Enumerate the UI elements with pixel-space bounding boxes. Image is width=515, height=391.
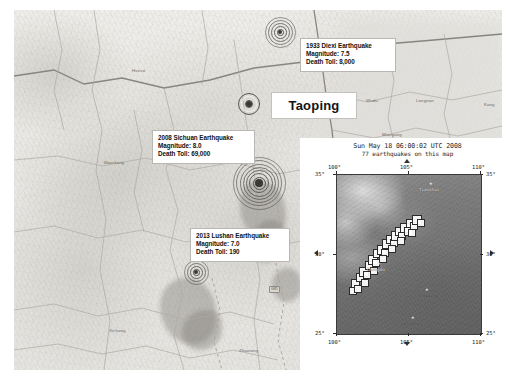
inset-lon-tick-bottom: 110° [472, 339, 485, 345]
map-place-label: Zhaotong [239, 348, 258, 353]
callout-detail: Magnitude: 7.0 [196, 240, 284, 248]
epicenter-center-dot [194, 270, 198, 274]
map-place-label: Longnan [416, 98, 434, 103]
map-place-label: Mianyang [382, 132, 402, 137]
taoping-label-box: Taoping [271, 92, 357, 119]
taoping-site-marker[interactable] [238, 93, 260, 115]
earthquake-square-marker[interactable] [361, 279, 369, 287]
callout-detail: Magnitude: 8.0 [158, 142, 249, 150]
inset-city-star-icon: ★ [377, 262, 381, 266]
epicenter-marker-diexi[interactable] [265, 17, 295, 47]
callout-detail: Death Toll: 69,000 [158, 150, 249, 158]
earthquake-callout-lushan-2013: 2013 Lushan EarthquakeMagnitude: 7.0Deat… [190, 228, 290, 262]
inset-lon-tick-top: 100° [328, 164, 341, 170]
inset-city-star-icon: ★ [411, 316, 415, 320]
inset-lon-tick-top: 105° [400, 164, 413, 170]
map-place-label: Hezuo [132, 68, 145, 73]
inset-city-star-icon: ★ [425, 288, 429, 292]
earthquake-square-marker[interactable] [388, 245, 396, 253]
earthquake-square-marker[interactable] [408, 229, 416, 237]
earthquake-callout-sichuan-2008: 2008 Sichuan EarthquakeMagnitude: 8.0Dea… [152, 130, 255, 164]
callout-title: 2008 Sichuan Earthquake [158, 134, 249, 142]
inset-place-label: Chongqing [415, 293, 438, 298]
inset-title-block: Sun May 18 06:00:02 UTC 2008 77 earthqua… [300, 142, 515, 157]
map-place-label: Xichang [109, 328, 126, 333]
inset-lat-tick-left: 35° [315, 171, 325, 177]
inset-lon-tick-top: 110° [472, 164, 485, 170]
screenshot-root: HezuoMinxianWuduLongnanKangMaerkangTazhe… [0, 0, 515, 391]
inset-lon-tick-bottom: 105° [400, 339, 413, 345]
pan-north-arrow[interactable] [404, 159, 410, 163]
inset-city-star-icon: ★ [429, 182, 433, 186]
epicenter-marker-sichuan[interactable] [233, 157, 285, 209]
inset-place-label: Chengdu [367, 267, 385, 272]
inset-map-frame[interactable]: ★Tianshui★Chengdu★Chongqing★Guiyang [336, 174, 482, 335]
axis-tick [408, 333, 409, 336]
inset-lon-tick-bottom: 100° [328, 339, 341, 345]
map-place-label: Wudu [366, 98, 378, 103]
taoping-center-dot [246, 101, 252, 107]
inset-lat-tick-left: 30° [315, 251, 325, 257]
callout-title: 1933 Diexi Earthquake [306, 42, 390, 50]
axis-tick [333, 333, 336, 334]
inset-timestamp: Sun May 18 06:00:02 UTC 2008 [300, 142, 515, 150]
axis-tick [336, 333, 337, 336]
callout-detail: Magnitude: 7.5 [306, 50, 390, 58]
axis-tick [480, 333, 483, 334]
inset-relief-texture [337, 175, 481, 334]
inset-lat-tick-right: 30° [486, 251, 496, 257]
axis-tick [333, 254, 336, 255]
earthquake-square-marker[interactable] [397, 237, 405, 245]
callout-title: 2013 Lushan Earthquake [196, 232, 284, 240]
inset-place-label: Tianshui [419, 187, 439, 192]
axis-tick [408, 171, 409, 174]
epicenter-marker-lushan[interactable] [184, 260, 208, 284]
inset-lat-tick-right: 25° [486, 330, 496, 336]
map-place-label: Kang [484, 102, 495, 107]
inset-lat-tick-right: 35° [486, 171, 496, 177]
axis-tick [333, 174, 336, 175]
earthquake-square-marker[interactable] [417, 219, 425, 227]
callout-detail: Death Toll: 8,000 [306, 58, 390, 66]
inset-place-label: Guiyang [401, 321, 419, 326]
taoping-label-text: Taoping [289, 98, 340, 113]
earthquake-callout-diexi-1933: 1933 Diexi EarthquakeMagnitude: 7.5Death… [300, 38, 396, 72]
axis-tick [336, 171, 337, 174]
inset-lat-tick-left: 25° [315, 330, 325, 336]
map-place-label: Maerkang [104, 160, 124, 165]
callout-detail: Death Toll: 190 [196, 248, 284, 256]
axis-tick [480, 174, 483, 175]
usgs-inset-panel[interactable]: Sun May 18 06:00:02 UTC 2008 77 earthqua… [300, 138, 515, 381]
road-shield-icon: G85 [269, 286, 280, 293]
inset-quake-count-text: 77 earthquakes on this map [300, 150, 515, 157]
axis-tick [480, 254, 483, 255]
